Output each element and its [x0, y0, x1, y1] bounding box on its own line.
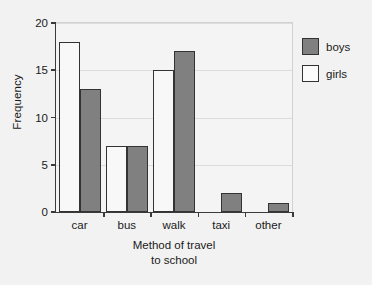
- bar-group: [56, 23, 103, 212]
- y-axis-tick: 5: [30, 159, 56, 171]
- legend-label-boys: boys: [326, 41, 350, 53]
- x-axis-tick-mark: [150, 212, 152, 217]
- bar-taxi-boys: [221, 193, 242, 212]
- y-axis-tick-label: 0: [30, 206, 51, 218]
- legend-swatch-girls: [302, 65, 319, 82]
- legend-label-girls: girls: [326, 68, 347, 80]
- x-axis-tick-label-bus: bus: [118, 219, 137, 231]
- x-axis-tick-mark: [103, 212, 105, 217]
- x-axis-tick-label-other: other: [255, 219, 281, 231]
- bar-group: [245, 23, 292, 212]
- bar-group: [198, 23, 245, 212]
- bar-bus-girls: [106, 146, 127, 212]
- y-axis-tick-label: 10: [30, 112, 51, 124]
- bar-group: [150, 23, 197, 212]
- x-axis-tick-mark: [245, 212, 247, 217]
- x-axis-title-line: to school: [55, 253, 293, 268]
- bar-group: [103, 23, 150, 212]
- bar-car-girls: [59, 42, 80, 212]
- x-axis-tick-mark: [292, 212, 294, 217]
- x-axis-title: Method of travelto school: [55, 238, 293, 268]
- x-axis-tick-label-taxi: taxi: [212, 219, 230, 231]
- bar-chart: Frequency 05101520 carbuswalktaxiother M…: [0, 0, 372, 285]
- plot-area: 05101520 carbuswalktaxiother: [55, 22, 293, 213]
- y-axis-tick: 15: [30, 64, 56, 76]
- y-axis-tick-label: 5: [30, 159, 51, 171]
- bar-other-boys: [268, 203, 289, 212]
- y-axis-tick: 0: [30, 206, 56, 218]
- y-axis-tick: 10: [30, 112, 56, 124]
- x-axis-tick-label-walk: walk: [162, 219, 185, 231]
- x-axis-tick-label-car: car: [72, 219, 88, 231]
- legend-item-girls[interactable]: girls: [302, 65, 350, 82]
- x-axis-title-line: Method of travel: [55, 238, 293, 253]
- y-axis-tick: 20: [30, 17, 56, 29]
- x-axis-tick-mark: [198, 212, 200, 217]
- legend-item-boys[interactable]: boys: [302, 38, 350, 55]
- y-axis-title: Frequency: [11, 57, 23, 147]
- bar-bus-boys: [127, 146, 148, 212]
- y-axis-tick-label: 20: [30, 17, 51, 29]
- bar-car-boys: [80, 89, 101, 212]
- bar-walk-girls: [153, 70, 174, 212]
- y-axis-tick-label: 15: [30, 64, 51, 76]
- chart-legend: boysgirls: [302, 38, 350, 92]
- bar-walk-boys: [174, 51, 195, 212]
- legend-swatch-boys: [302, 38, 319, 55]
